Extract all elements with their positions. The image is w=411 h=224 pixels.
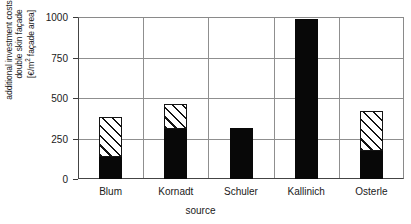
chart-figure: additional investment costs for double s… <box>0 0 411 224</box>
y-axis-tick-label: 750 <box>0 52 68 63</box>
bar-blum <box>99 117 122 179</box>
bar-segment-solid <box>360 151 383 179</box>
bars-layer <box>78 17 404 179</box>
bar-osterle <box>360 111 383 179</box>
y-axis-tick-label: 1000 <box>0 12 68 23</box>
bar-kornadt <box>164 104 187 179</box>
y-axis-tick-label: 0 <box>0 174 68 185</box>
bar-segment-solid <box>230 128 253 179</box>
y-axis-tick-label: 500 <box>0 93 68 104</box>
x-axis-title-text: source <box>185 205 215 216</box>
x-axis-title: source <box>0 205 411 216</box>
y-axis-tick-label: 250 <box>0 133 68 144</box>
bar-kallinich <box>295 19 318 179</box>
bar-schuler <box>230 128 253 179</box>
bar-segment-hatched <box>360 111 383 152</box>
bar-segment-solid <box>295 19 318 179</box>
bar-segment-solid <box>164 129 187 179</box>
x-axis-category-label: Osterle <box>331 186 411 197</box>
bar-segment-solid <box>99 157 122 179</box>
bar-segment-hatched <box>164 104 187 129</box>
y-axis-tick-mark <box>73 179 78 180</box>
bar-segment-hatched <box>99 117 122 158</box>
